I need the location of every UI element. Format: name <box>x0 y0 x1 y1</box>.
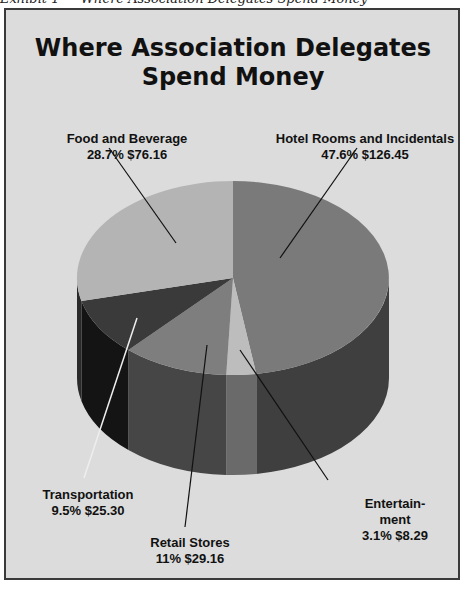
label-retail-name: Retail Stores <box>130 535 250 551</box>
label-hotel-detail: 47.6% $126.45 <box>270 147 460 163</box>
label-transportation-detail: 9.5% $25.30 <box>28 503 148 519</box>
label-entertainment-name-1: Entertain- <box>345 496 445 512</box>
label-entertainment: Entertain- ment 3.1% $8.29 <box>345 496 445 544</box>
slice-side-entertainment <box>226 374 256 475</box>
label-food-detail: 28.7% $76.16 <box>52 147 202 163</box>
label-hotel: Hotel Rooms and Incidentals 47.6% $126.4… <box>270 131 460 163</box>
label-transportation-name: Transportation <box>28 487 148 503</box>
label-food-name: Food and Beverage <box>52 131 202 147</box>
label-transportation: Transportation 9.5% $25.30 <box>28 487 148 519</box>
label-retail-detail: 11% $29.16 <box>130 551 250 567</box>
label-entertainment-detail: 3.1% $8.29 <box>345 528 445 544</box>
label-food: Food and Beverage 28.7% $76.16 <box>52 131 202 163</box>
label-hotel-name: Hotel Rooms and Incidentals <box>270 131 460 147</box>
label-retail: Retail Stores 11% $29.16 <box>130 535 250 567</box>
label-entertainment-name-2: ment <box>345 512 445 528</box>
